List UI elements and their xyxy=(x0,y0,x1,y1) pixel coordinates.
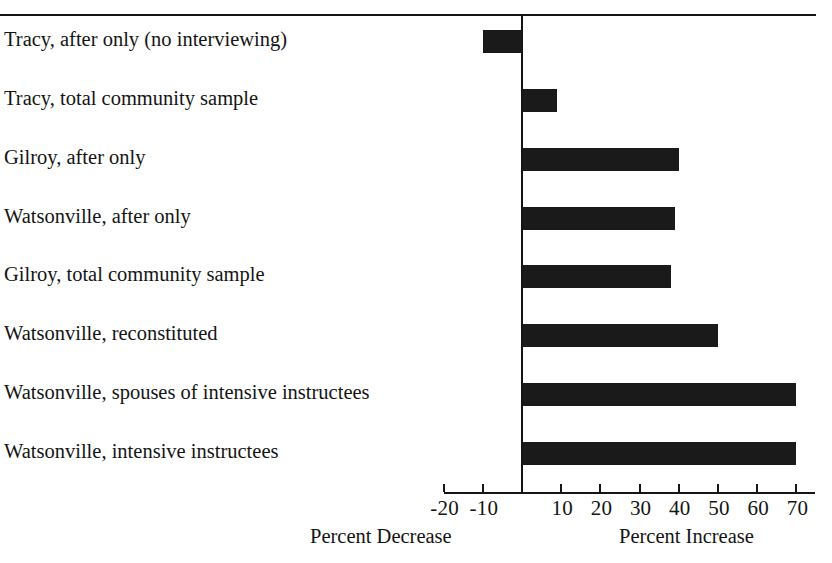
bar xyxy=(522,383,796,406)
x-axis-tick xyxy=(717,484,719,492)
category-label: Watsonville, spouses of intensive instru… xyxy=(4,380,474,404)
zero-reference-line xyxy=(521,15,523,493)
category-label: Watsonville, after only xyxy=(4,204,474,228)
category-label: Gilroy, total community sample xyxy=(4,262,474,286)
bar xyxy=(522,148,679,171)
x-axis-tick xyxy=(560,484,562,492)
bar xyxy=(522,442,796,465)
x-axis-tick-label: 70 xyxy=(767,496,827,521)
category-label: Watsonville, intensive instructees xyxy=(4,439,474,463)
category-label: Tracy, total community sample xyxy=(4,86,474,110)
category-label: Watsonville, reconstituted xyxy=(4,321,474,345)
x-axis-tick xyxy=(482,484,484,492)
x-axis-tick-label: -10 xyxy=(454,496,514,521)
x-axis-line xyxy=(444,492,815,494)
x-axis-tick xyxy=(599,484,601,492)
x-axis-tick xyxy=(443,484,445,492)
category-label: Gilroy, after only xyxy=(4,145,474,169)
x-axis-tick xyxy=(678,484,680,492)
category-label: Tracy, after only (no interviewing) xyxy=(4,27,474,51)
x-axis-tick xyxy=(795,484,797,492)
bar xyxy=(522,265,671,288)
bar xyxy=(483,30,522,53)
axis-caption-decrease: Percent Decrease xyxy=(310,524,452,549)
axis-caption-increase: Percent Increase xyxy=(619,524,754,549)
bar xyxy=(522,324,718,347)
bar xyxy=(522,89,557,112)
top-rule-divider xyxy=(0,14,816,16)
bar-chart: Tracy, after only (no interviewing)Tracy… xyxy=(0,0,832,563)
x-axis-tick xyxy=(756,484,758,492)
bar xyxy=(522,207,675,230)
x-axis-tick xyxy=(639,484,641,492)
